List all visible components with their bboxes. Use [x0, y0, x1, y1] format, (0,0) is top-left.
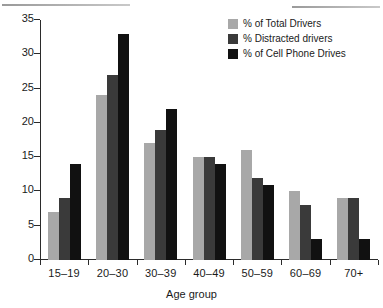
bar	[348, 198, 359, 260]
bar	[48, 212, 59, 260]
legend-swatch-icon	[228, 49, 238, 59]
bar	[215, 164, 226, 260]
x-axis-label: 60–69	[281, 267, 329, 279]
x-axis-tick	[378, 260, 379, 265]
legend-item: % of Total Drivers	[228, 18, 346, 29]
bar	[311, 239, 322, 260]
bar-group	[48, 20, 81, 260]
x-axis-title: Age group	[0, 288, 383, 300]
legend-label: % of Total Drivers	[243, 18, 321, 29]
legend-item: % of Cell Phone Drives	[228, 48, 346, 59]
bar	[107, 75, 118, 260]
bar	[300, 205, 311, 260]
bar	[193, 157, 204, 260]
x-axis-tick	[281, 260, 282, 265]
scan-rule-right	[292, 6, 380, 8]
x-axis-label: 50–59	[233, 267, 281, 279]
y-axis-label: 0	[0, 253, 34, 264]
bar	[289, 191, 300, 260]
bar	[241, 150, 252, 260]
bar	[70, 164, 81, 260]
legend-swatch-icon	[228, 34, 238, 44]
x-axis-tick	[88, 260, 89, 265]
y-axis-label: 10	[0, 184, 34, 195]
legend-item: % Distracted drivers	[228, 33, 346, 44]
bar-group	[144, 20, 177, 260]
x-axis-label: 15–19	[40, 267, 88, 279]
bar	[252, 178, 263, 260]
x-axis-tick	[330, 260, 331, 265]
bar	[144, 143, 155, 260]
bar	[96, 95, 107, 260]
bar-group	[193, 20, 226, 260]
legend-label: % of Cell Phone Drives	[243, 48, 346, 59]
chart-legend: % of Total Drivers% Distracted drivers% …	[228, 18, 346, 63]
x-axis-label: 20–30	[88, 267, 136, 279]
legend-label: % Distracted drivers	[243, 33, 332, 44]
x-axis-tick	[40, 260, 41, 265]
x-axis-tick	[185, 260, 186, 265]
bar	[359, 239, 370, 260]
y-axis-label: 15	[0, 150, 34, 161]
bar-group	[96, 20, 129, 260]
bar	[263, 185, 274, 260]
x-axis-label: 70+	[330, 267, 378, 279]
bar	[204, 157, 215, 260]
y-axis-label: 25	[0, 82, 34, 93]
bar	[155, 130, 166, 260]
x-axis-tick	[233, 260, 234, 265]
x-axis-tick	[137, 260, 138, 265]
y-axis-label: 30	[0, 47, 34, 58]
bar	[59, 198, 70, 260]
scan-rule-left	[2, 4, 130, 6]
y-axis-label: 5	[0, 219, 34, 230]
bar	[166, 109, 177, 260]
y-axis-label: 20	[0, 116, 34, 127]
legend-swatch-icon	[228, 19, 238, 29]
x-axis-label: 30–39	[137, 267, 185, 279]
x-axis-label: 40–49	[185, 267, 233, 279]
bar	[118, 34, 129, 260]
bar	[337, 198, 348, 260]
bar-chart: 05101520253035 15–1920–3030–3940–4950–59…	[0, 0, 383, 308]
y-axis-label: 35	[0, 13, 34, 24]
